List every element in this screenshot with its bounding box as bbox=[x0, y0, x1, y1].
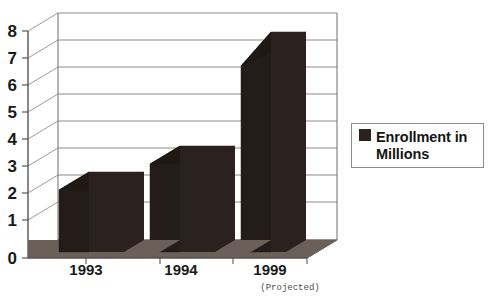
bar-1994-front bbox=[180, 146, 235, 252]
legend-label-line1: Enrollment in bbox=[376, 129, 467, 145]
bar-chart: 8 7 6 5 4 3 2 1 0 bbox=[0, 0, 491, 299]
y-tick-label-8: 8 bbox=[8, 22, 17, 41]
bar-1999[interactable] bbox=[241, 32, 306, 252]
y-tick-label-0: 0 bbox=[8, 249, 17, 268]
y-tick-label-1: 1 bbox=[8, 211, 17, 230]
x-axis-labels: 1993 1994 1999 (Projected) bbox=[69, 261, 319, 293]
legend-label-text: Enrollment in Millions bbox=[376, 129, 467, 163]
depth-line-7 bbox=[28, 40, 58, 58]
y-tick-label-4: 4 bbox=[8, 130, 18, 149]
x-tick-label-1993: 1993 bbox=[69, 261, 102, 278]
y-tick-label-3: 3 bbox=[8, 157, 17, 176]
y-tick-label-7: 7 bbox=[8, 49, 17, 68]
bar-1999-front bbox=[271, 32, 306, 252]
legend-label-line2: Millions bbox=[376, 146, 429, 162]
depth-line-6 bbox=[28, 67, 58, 85]
depth-line-8 bbox=[28, 13, 58, 31]
bar-1999-side bbox=[241, 32, 271, 252]
y-axis: 8 7 6 5 4 3 2 1 0 bbox=[8, 22, 28, 268]
depth-line-3 bbox=[28, 148, 58, 166]
floor-gap-0 bbox=[28, 240, 58, 258]
depth-line-4 bbox=[28, 121, 58, 139]
y-tick-label-6: 6 bbox=[8, 76, 17, 95]
x-tick-note-projected: (Projected) bbox=[260, 283, 319, 293]
y-tick-label-5: 5 bbox=[8, 103, 17, 122]
depth-line-1 bbox=[28, 202, 58, 220]
depth-line-2 bbox=[28, 175, 58, 193]
bar-1994[interactable] bbox=[150, 146, 235, 252]
x-tick-label-1994: 1994 bbox=[164, 261, 198, 278]
chart-legend[interactable]: Enrollment in Millions bbox=[351, 123, 484, 168]
bar-1993[interactable] bbox=[59, 172, 144, 252]
bar-1993-front bbox=[89, 172, 144, 252]
legend-color-swatch-icon bbox=[359, 129, 371, 141]
depth-line-5 bbox=[28, 94, 58, 112]
y-tick-label-2: 2 bbox=[8, 184, 17, 203]
x-tick-label-1999: 1999 bbox=[253, 261, 286, 278]
